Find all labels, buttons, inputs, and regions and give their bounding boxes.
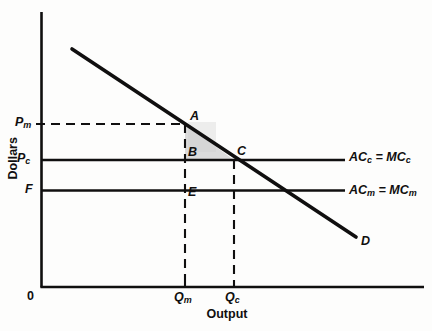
point-label-a: A — [190, 110, 199, 123]
y-tick-label-f: F — [25, 183, 33, 196]
demand-curve-label-d: D — [361, 235, 370, 248]
x-axis-title: Output — [197, 308, 257, 321]
y-axis-title: Dollars — [7, 128, 20, 188]
demand-curve — [72, 49, 356, 237]
monopoly-cost-curve-label: ACm = MCm — [349, 184, 417, 198]
x-tick-label-qm: Qm — [174, 291, 192, 305]
economics-diagram-figure: Pm Pc F 0 Qm Qc A B C E D ACc = MCc ACm … — [0, 0, 432, 331]
point-label-c: C — [237, 145, 246, 158]
competitive-cost-curve-label: ACc = MCc — [349, 151, 411, 165]
origin-label: 0 — [27, 290, 34, 303]
point-label-b: B — [188, 146, 197, 159]
point-label-e: E — [188, 186, 196, 199]
x-tick-label-qc: Qc — [225, 291, 240, 305]
plot-canvas — [0, 0, 432, 331]
